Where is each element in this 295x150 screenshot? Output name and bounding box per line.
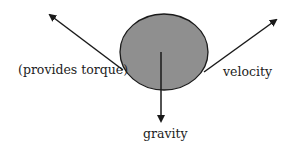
ball: [120, 14, 208, 90]
force-diagram: (provides torque) velocity gravity: [0, 0, 295, 150]
torque-label: (provides torque): [18, 64, 128, 77]
gravity-label: gravity: [143, 128, 188, 141]
velocity-label: velocity: [223, 66, 272, 79]
